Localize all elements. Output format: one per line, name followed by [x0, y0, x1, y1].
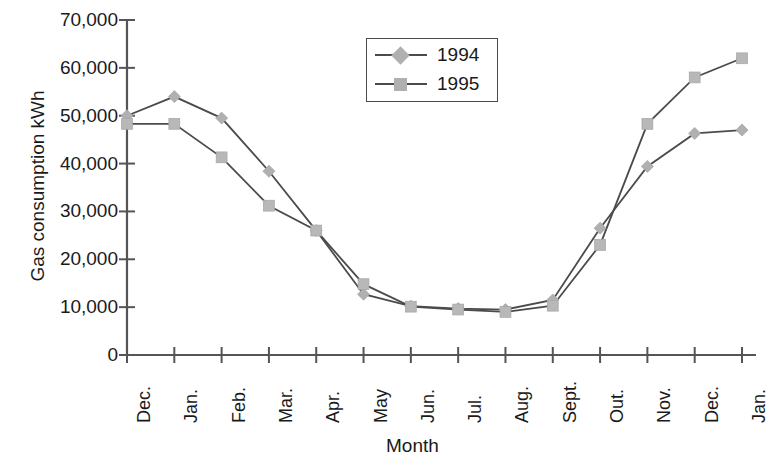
legend-label: 1995 — [437, 73, 479, 95]
data-point-1995-Nov. — [642, 118, 653, 129]
x-axis-tick-label: Out. — [607, 389, 628, 423]
data-point-1995-Jan. — [737, 53, 748, 64]
data-point-1995-Aug. — [500, 307, 511, 318]
x-axis-tick-label: Jun. — [418, 389, 439, 423]
data-point-1994-Dec. — [689, 127, 701, 139]
data-point-1995-Jan. — [169, 118, 180, 129]
x-axis-tick-label: May — [371, 389, 392, 423]
x-axis-tick-label: Dec. — [134, 386, 155, 423]
x-axis-tick-label: Mar. — [276, 388, 297, 423]
data-point-1994-Jan. — [736, 124, 748, 136]
legend: 1994 1995 — [366, 38, 498, 102]
x-axis-tick-label: Feb. — [229, 387, 250, 423]
legend-item-1994: 1994 — [375, 42, 491, 68]
data-point-1995-Dec. — [689, 72, 700, 83]
x-axis-tick-label: Dec. — [702, 386, 723, 423]
legend-swatch-square — [375, 75, 427, 93]
legend-swatch-diamond — [375, 46, 427, 64]
legend-item-1995: 1995 — [375, 71, 491, 97]
data-point-1995-Mar. — [264, 200, 275, 211]
data-point-1995-Dec. — [122, 118, 133, 129]
x-axis-tick-label: Jul. — [465, 395, 486, 423]
data-point-1995-Apr. — [311, 225, 322, 236]
x-axis-tick-label: Sept. — [560, 381, 581, 423]
data-point-1995-Jul. — [453, 304, 464, 315]
data-point-1995-Feb. — [216, 152, 227, 163]
x-axis-tick-label: Jan. — [749, 389, 770, 423]
x-axis-tick-label: Jan. — [181, 389, 202, 423]
x-axis-tick-label: Nov. — [654, 387, 675, 423]
data-point-1994-Jan. — [168, 91, 180, 103]
x-axis-tick-label: Apr. — [323, 391, 344, 423]
data-point-1995-May — [358, 279, 369, 290]
data-point-1995-Sept. — [547, 300, 558, 311]
x-axis-tick-label: Aug. — [512, 386, 533, 423]
data-point-1995-Jun. — [405, 301, 416, 312]
data-point-1995-Out. — [595, 240, 606, 251]
legend-label: 1994 — [437, 44, 479, 66]
